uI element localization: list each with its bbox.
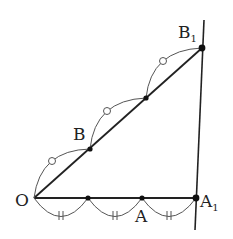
arc-base-3 <box>142 198 196 217</box>
tick-mark-2 <box>113 211 117 220</box>
geometry-figure: O A A1 B B1 <box>0 0 233 239</box>
label-B1: B1 <box>178 22 197 44</box>
point-A <box>139 195 144 200</box>
point-B <box>87 146 92 151</box>
label-O: O <box>15 190 29 210</box>
label-A1: A1 <box>199 191 219 213</box>
tick-mark-3 <box>167 211 171 220</box>
arc-base-1 <box>34 198 88 217</box>
arc-base-2 <box>88 198 142 217</box>
point-P1 <box>85 195 90 200</box>
label-A: A <box>134 206 148 226</box>
circle-mark-1 <box>49 158 56 165</box>
circle-mark-3 <box>160 58 167 65</box>
tick-mark-1 <box>59 211 63 220</box>
point-B1 <box>199 45 206 52</box>
point-mid <box>143 95 148 100</box>
circle-mark-2 <box>104 108 111 115</box>
label-B: B <box>73 124 86 144</box>
segment-OB1 <box>34 48 202 198</box>
point-A1 <box>193 195 200 202</box>
